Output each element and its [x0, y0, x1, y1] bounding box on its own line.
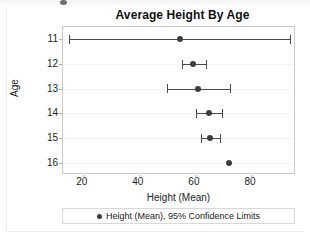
error-bar-cap: [167, 84, 168, 93]
legend-marker-icon: [97, 214, 102, 219]
error-bar-cap: [196, 109, 197, 118]
gridline: [63, 163, 294, 164]
top-edge-artifact: [0, 0, 310, 6]
y-axis-tick-label: 13: [47, 82, 58, 93]
chart-title: Average Height By Age: [60, 8, 305, 22]
chart-legend: Height (Mean), 95% Confidence Limits: [62, 208, 295, 224]
error-bar-cap: [206, 60, 207, 69]
error-bar-cap: [220, 134, 221, 143]
y-axis-tick-label: 16: [47, 156, 58, 167]
cropped-marker-artifact: [60, 0, 67, 5]
data-point-marker: [206, 110, 212, 116]
x-axis-tick-label: 20: [76, 176, 87, 187]
x-axis-title: Height (Mean): [62, 192, 295, 203]
gridline: [63, 138, 294, 139]
chart-container: Average Height By Age Age Height (Mean) …: [0, 0, 310, 239]
y-axis-tick: [59, 64, 63, 65]
x-axis-tick: [83, 175, 84, 179]
x-axis-tick-label: 80: [245, 176, 256, 187]
y-axis-tick-label: 15: [47, 132, 58, 143]
page-bottom-border: [6, 231, 304, 232]
data-point-marker: [177, 36, 183, 42]
y-axis-title: Age: [9, 79, 20, 97]
x-axis-tick: [195, 175, 196, 179]
legend-label: Height (Mean), 95% Confidence Limits: [106, 211, 260, 221]
y-axis-tick: [59, 163, 63, 164]
y-axis-tick: [59, 113, 63, 114]
plot-area: [62, 26, 295, 174]
data-point-marker: [195, 86, 201, 92]
y-axis-tick-labels: 111213141516: [30, 26, 58, 174]
x-axis-tick-labels: 20406080: [62, 176, 295, 190]
y-axis-tick-label: 12: [47, 58, 58, 69]
y-axis-tick: [59, 39, 63, 40]
x-axis-tick-label: 60: [188, 176, 199, 187]
data-point-marker: [190, 61, 196, 67]
gridline: [63, 64, 294, 65]
error-bar-cap: [201, 134, 202, 143]
data-point-marker: [207, 135, 213, 141]
y-axis-tick: [59, 89, 63, 90]
gridline: [63, 113, 294, 114]
y-axis-tick-label: 11: [48, 33, 58, 44]
x-axis-tick: [139, 175, 140, 179]
page-left-border: [6, 6, 7, 231]
error-bar-cap: [69, 35, 70, 44]
data-point-marker: [226, 160, 232, 166]
error-bar-cap: [230, 84, 231, 93]
x-axis-tick: [251, 175, 252, 179]
error-bar-cap: [222, 109, 223, 118]
error-bar-cap: [182, 60, 183, 69]
x-axis-tick-label: 40: [132, 176, 143, 187]
y-axis-tick: [59, 138, 63, 139]
error-bar-cap: [290, 35, 291, 44]
y-axis-tick-label: 14: [47, 107, 58, 118]
